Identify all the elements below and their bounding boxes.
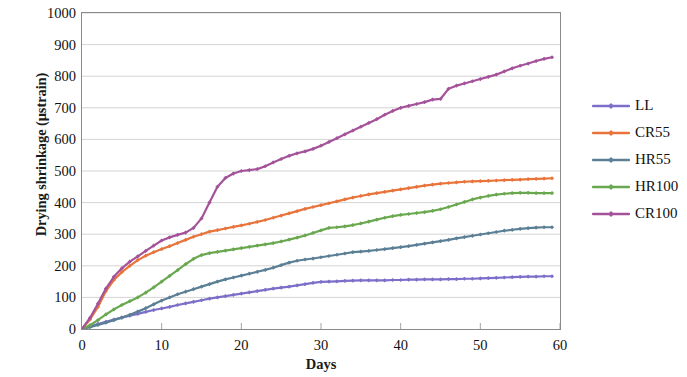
- data-point-marker: [391, 188, 395, 192]
- data-point-marker: [239, 246, 243, 250]
- y-axis-tick-label: 300: [30, 227, 76, 242]
- data-point-marker: [470, 179, 474, 183]
- data-point-marker: [438, 239, 442, 243]
- y-axis-tick-label: 100: [30, 290, 76, 305]
- data-point-marker: [407, 212, 411, 216]
- data-point-marker: [303, 282, 307, 286]
- data-point-marker: [438, 182, 442, 186]
- y-axis-tick-label: 800: [30, 69, 76, 84]
- y-axis-tick-label: 400: [30, 196, 76, 211]
- data-point-marker: [534, 274, 538, 278]
- data-point-marker: [255, 289, 259, 293]
- data-point-marker: [399, 245, 403, 249]
- data-point-marker: [415, 278, 419, 282]
- data-point-marker: [526, 274, 530, 278]
- data-point-marker: [510, 191, 514, 195]
- data-point-marker: [343, 279, 347, 283]
- data-point-marker: [407, 186, 411, 190]
- chart-legend: LLCR55HR55HR100CR100: [592, 92, 687, 227]
- legend-color-swatch: [592, 100, 630, 112]
- data-point-marker: [391, 278, 395, 282]
- y-axis-tick-label: 0: [30, 322, 76, 337]
- data-point-marker: [462, 235, 466, 239]
- x-axis-tick-label: 30: [301, 338, 341, 353]
- data-point-marker: [303, 257, 307, 261]
- data-point-marker: [199, 298, 203, 302]
- data-point-marker: [510, 178, 514, 182]
- data-point-marker: [279, 286, 283, 290]
- data-point-marker: [223, 226, 227, 230]
- data-point-marker: [215, 250, 219, 254]
- data-point-marker: [502, 178, 506, 182]
- data-point-marker: [359, 249, 363, 253]
- data-point-marker: [247, 168, 251, 172]
- data-point-marker: [319, 255, 323, 259]
- legend-item-cr55[interactable]: CR55: [592, 119, 687, 146]
- data-point-marker: [335, 279, 339, 283]
- data-point-marker: [407, 244, 411, 248]
- data-point-marker: [327, 280, 331, 284]
- data-point-marker: [502, 275, 506, 279]
- data-point-marker: [494, 230, 498, 234]
- y-axis-tick-label: 700: [30, 101, 76, 116]
- series-line: [82, 178, 552, 329]
- series-line: [82, 276, 552, 329]
- legend-item-label: LL: [630, 97, 653, 114]
- legend-item-hr100[interactable]: HR100: [592, 173, 687, 200]
- data-point-marker: [263, 242, 267, 246]
- x-axis-tick-label: 40: [381, 338, 421, 353]
- data-point-marker: [510, 228, 514, 232]
- x-axis-title: Days: [81, 356, 561, 373]
- data-point-marker: [526, 191, 530, 195]
- drying-shrinkage-chart-figure: Drying shrinkage (μstrain) 1000900800700…: [0, 0, 687, 377]
- data-point-marker: [383, 247, 387, 251]
- legend-item-cr100[interactable]: CR100: [592, 200, 687, 227]
- data-point-marker: [542, 274, 546, 278]
- x-axis-tick-label: 0: [62, 338, 102, 353]
- data-point-marker: [430, 209, 434, 213]
- data-point-marker: [518, 191, 522, 195]
- data-point-marker: [407, 278, 411, 282]
- data-point-marker: [351, 279, 355, 283]
- chart-canvas: [82, 13, 560, 329]
- data-point-marker: [494, 178, 498, 182]
- data-point-marker: [231, 293, 235, 297]
- x-axis-tick-label: 20: [221, 338, 261, 353]
- y-axis-tick-label: 500: [30, 164, 76, 179]
- y-axis-tick-label: 1000: [30, 6, 76, 21]
- data-point-marker: [263, 288, 267, 292]
- data-point-marker: [191, 300, 195, 304]
- data-point-marker: [415, 185, 419, 189]
- legend-item-ll[interactable]: LL: [592, 92, 687, 119]
- data-point-marker: [478, 276, 482, 280]
- data-point-marker: [486, 194, 490, 198]
- data-point-marker: [247, 245, 251, 249]
- x-axis-tick-label: 50: [460, 338, 500, 353]
- data-point-marker: [518, 227, 522, 231]
- data-point-marker: [311, 281, 315, 285]
- data-point-marker: [542, 191, 546, 195]
- data-point-marker: [430, 182, 434, 186]
- data-point-marker: [399, 278, 403, 282]
- data-point-marker: [223, 249, 227, 253]
- data-point-marker: [215, 295, 219, 299]
- data-point-marker: [550, 191, 554, 195]
- data-point-marker: [534, 191, 538, 195]
- data-point-marker: [383, 278, 387, 282]
- legend-color-swatch: [592, 154, 630, 166]
- data-point-marker: [542, 176, 546, 180]
- data-point-marker: [462, 180, 466, 184]
- legend-item-hr55[interactable]: HR55: [592, 146, 687, 173]
- x-axis-tick-label: 10: [142, 338, 182, 353]
- legend-item-label: HR55: [630, 151, 671, 168]
- legend-color-swatch: [592, 181, 630, 193]
- data-point-marker: [422, 277, 426, 281]
- y-axis-tick-label: 600: [30, 132, 76, 147]
- data-point-marker: [478, 232, 482, 236]
- series-hr55: [82, 225, 554, 329]
- data-point-marker: [295, 283, 299, 287]
- legend-item-label: HR100: [630, 178, 678, 195]
- data-point-marker: [367, 249, 371, 253]
- data-point-marker: [486, 231, 490, 235]
- data-point-marker: [183, 301, 187, 305]
